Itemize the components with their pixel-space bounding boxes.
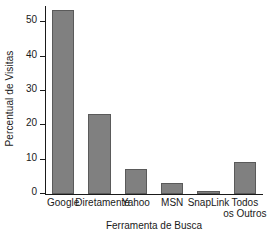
y-axis-tick-label: 40 [26, 49, 37, 60]
x-axis-category-label-line: Todos [231, 197, 258, 208]
bar [88, 114, 111, 194]
y-axis-tick: 30 [40, 90, 45, 91]
bar-chart: Percentual de Visitas 01020304050 Google… [0, 0, 270, 236]
y-axis-tick-label: 10 [26, 152, 37, 163]
x-axis-category-label-line: Yahoo [122, 197, 150, 208]
y-axis-line [45, 6, 46, 195]
y-axis-tick: 20 [40, 124, 45, 125]
y-axis-tick-label: 30 [26, 83, 37, 94]
y-axis-tick-label: 0 [31, 186, 37, 197]
y-axis-title: Percentual de Visitas [0, 0, 20, 196]
x-axis-title: Ferramenta de Busca [45, 220, 263, 231]
bar [234, 162, 257, 194]
y-axis-title-text: Percentual de Visitas [5, 50, 16, 146]
y-axis-tick-label: 50 [26, 14, 37, 25]
x-axis-category-label-line: MSN [161, 197, 183, 208]
y-axis-tick: 10 [40, 159, 45, 160]
x-axis-line [45, 194, 263, 195]
bar [52, 10, 75, 194]
y-axis-tick-label: 20 [26, 117, 37, 128]
plot-area: 01020304050 [45, 6, 263, 195]
bar [161, 183, 184, 194]
y-axis-tick: 50 [40, 21, 45, 22]
y-axis-tick: 0 [40, 193, 45, 194]
x-axis-category-label-line: os Outros [221, 208, 269, 219]
bar [197, 191, 220, 194]
x-axis-category-label: Todosos Outros [221, 197, 269, 219]
y-axis-tick: 40 [40, 56, 45, 57]
bar [125, 169, 148, 194]
